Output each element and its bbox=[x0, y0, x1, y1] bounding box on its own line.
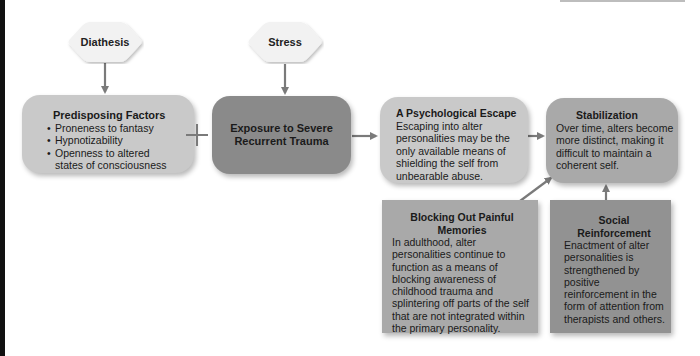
stress-node: Stress bbox=[246, 20, 324, 64]
escape-body: Escaping into alter personalities may be… bbox=[396, 120, 514, 183]
left-border bbox=[0, 0, 5, 356]
predisposing-item: Proneness to fantasy bbox=[47, 122, 184, 135]
escape-title: A Psychological Escape bbox=[396, 107, 520, 120]
social-title: Social Reinforcement bbox=[564, 214, 664, 239]
stabilization-node: Stabilization Over time, alters become m… bbox=[546, 98, 678, 183]
predisposing-title: Predisposing Factors bbox=[47, 109, 184, 122]
predisposing-item: Openness to altered states of consciousn… bbox=[47, 147, 180, 172]
social-body: Enactment of alter personalities is stre… bbox=[564, 239, 666, 325]
social-reinforcement-node: Social Reinforcement Enactment of alter … bbox=[550, 200, 671, 333]
psychological-escape-node: A Psychological Escape Escaping into alt… bbox=[380, 97, 528, 183]
diathesis-node: Diathesis bbox=[66, 20, 144, 64]
blocking-body: In adulthood, alter personalities contin… bbox=[392, 236, 532, 334]
diathesis-label: Diathesis bbox=[66, 20, 144, 64]
top-edge-line bbox=[560, 0, 685, 2]
blocking-memories-node: Blocking Out Painful Memories In adultho… bbox=[382, 200, 538, 333]
blocking-title: Blocking Out Painful Memories bbox=[396, 211, 528, 236]
predisposing-list: Proneness to fantasy Hypnotizability Ope… bbox=[47, 122, 184, 172]
exposure-trauma-node: Exposure to Severe Recurrent Trauma bbox=[212, 96, 351, 174]
plus-icon bbox=[186, 124, 208, 146]
arrow-blocking-to-stabilization bbox=[520, 178, 551, 201]
predisposing-factors-node: Predisposing Factors Proneness to fantas… bbox=[22, 95, 194, 173]
stress-label: Stress bbox=[246, 20, 324, 64]
stabilization-title: Stabilization bbox=[556, 109, 672, 122]
predisposing-item: Hypnotizability bbox=[47, 134, 184, 147]
exposure-title: Exposure to Severe Recurrent Trauma bbox=[226, 122, 337, 148]
stabilization-body: Over time, alters become more distinct, … bbox=[556, 122, 674, 172]
